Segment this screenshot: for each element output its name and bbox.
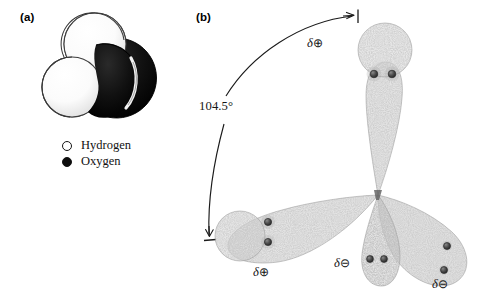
lobe-bonding-lower-left [215,195,378,263]
charge-label-lone-pair-right: δ⊖ [432,277,448,292]
charge-sign-icon: ⊕ [313,37,323,49]
oxygen-marker-icon [62,157,72,167]
legend-item-hydrogen: Hydrogen [62,138,131,153]
charge-label-lone-pair-center: δ⊖ [334,256,350,271]
arc-arrowhead-bottom [204,226,216,241]
electron-dot [264,238,271,245]
electron-dot [441,267,448,274]
legend-label-hydrogen: Hydrogen [81,139,131,152]
charge-sign-icon: ⊕ [259,266,269,278]
orbital-model [204,10,467,287]
charge-sign-icon: ⊖ [438,278,448,290]
charge-sign-icon: ⊖ [340,257,350,269]
bond-angle-label: 104.5° [199,99,233,114]
oxygen-sphere [42,13,156,118]
electron-dot [264,218,271,225]
space-filling-model [42,13,156,118]
hydrogen-marker-icon [62,141,72,151]
electron-dot [444,243,451,250]
electron-dot [367,256,374,263]
electron-dot [381,256,388,263]
legend: Hydrogen Oxygen [62,138,131,170]
figure-water-molecule: (a) (b) [0,0,483,304]
charge-label-top: δ⊕ [307,36,323,51]
electron-dot [388,70,396,78]
legend-label-oxygen: Oxygen [81,155,121,168]
legend-item-oxygen: Oxygen [62,154,131,169]
lobe-bonding-top [358,23,412,195]
electron-dot [370,70,378,78]
charge-label-lower-left: δ⊕ [253,265,269,280]
